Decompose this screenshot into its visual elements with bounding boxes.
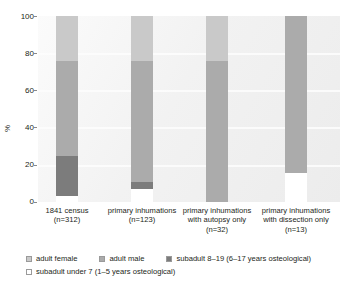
segment-subadult-under-7 bbox=[131, 189, 153, 202]
legend-row-1: adult female adult male subadult 8–19 (6… bbox=[26, 254, 346, 263]
segment-subadult-8-19 bbox=[56, 156, 78, 196]
stacked-bar-chart-figure: % 100 80 60 40 20 0 bbox=[0, 0, 360, 288]
segment-adult-male bbox=[285, 16, 307, 173]
y-tick-label-80: 80 bbox=[0, 49, 34, 58]
segment-adult-female bbox=[56, 16, 78, 61]
y-tick-mark-60 bbox=[34, 90, 37, 91]
y-tick-label-0: 0 bbox=[0, 197, 34, 206]
y-tick-label-20: 20 bbox=[0, 160, 34, 169]
bar-primary-inhumations bbox=[131, 16, 153, 202]
y-tick-mark-0 bbox=[34, 202, 37, 203]
x-label-line3: (n=13) bbox=[248, 225, 344, 234]
legend-label-subadult-under-7: subadult under 7 (1–5 years osteological… bbox=[36, 267, 175, 276]
legend-label-adult-female: adult female bbox=[36, 254, 77, 263]
segment-adult-male bbox=[131, 61, 153, 182]
segment-adult-male bbox=[56, 61, 78, 157]
y-tick-label-60: 60 bbox=[0, 86, 34, 95]
segment-adult-female bbox=[206, 16, 228, 61]
x-label-line1: primary inhumations bbox=[248, 206, 344, 215]
y-tick-label-40: 40 bbox=[0, 123, 34, 132]
segment-subadult-8-19 bbox=[131, 182, 153, 189]
legend-label-adult-male: adult male bbox=[109, 254, 144, 263]
segment-subadult-under-7 bbox=[285, 173, 307, 202]
plot-area bbox=[38, 16, 340, 202]
segment-subadult-under-7 bbox=[56, 196, 78, 202]
segment-adult-male bbox=[206, 61, 228, 202]
y-tick-mark-80 bbox=[34, 53, 37, 54]
y-tick-label-100: 100 bbox=[0, 12, 34, 21]
x-label-line2: with dissection only bbox=[248, 215, 344, 224]
y-tick-mark-40 bbox=[34, 127, 37, 128]
legend-item-adult-female: adult female bbox=[26, 254, 77, 263]
bar-primary-inhumations-autopsy bbox=[206, 16, 228, 202]
bar-primary-inhumations-dissection bbox=[285, 16, 307, 202]
legend-item-adult-male: adult male bbox=[99, 254, 144, 263]
segment-adult-female bbox=[131, 16, 153, 61]
legend-swatch-adult-male-icon bbox=[99, 256, 105, 262]
y-tick-mark-100 bbox=[34, 16, 37, 17]
legend-swatch-adult-female-icon bbox=[26, 256, 32, 262]
legend-swatch-subadult-under-7-icon bbox=[26, 269, 32, 275]
legend-row-2: subadult under 7 (1–5 years osteological… bbox=[26, 267, 346, 276]
legend-swatch-subadult-8-19-icon bbox=[166, 256, 172, 262]
legend-item-subadult-8-19: subadult 8–19 (6–17 years osteological) bbox=[166, 254, 311, 263]
bar-1841-census bbox=[56, 16, 78, 202]
x-label-primary-inhumations-dissection: primary inhumations with dissection only… bbox=[248, 206, 344, 234]
legend-label-subadult-8-19: subadult 8–19 (6–17 years osteological) bbox=[176, 254, 311, 263]
legend-item-subadult-under-7: subadult under 7 (1–5 years osteological… bbox=[26, 267, 175, 276]
y-tick-mark-20 bbox=[34, 165, 37, 166]
chart-legend: adult female adult male subadult 8–19 (6… bbox=[26, 254, 346, 280]
